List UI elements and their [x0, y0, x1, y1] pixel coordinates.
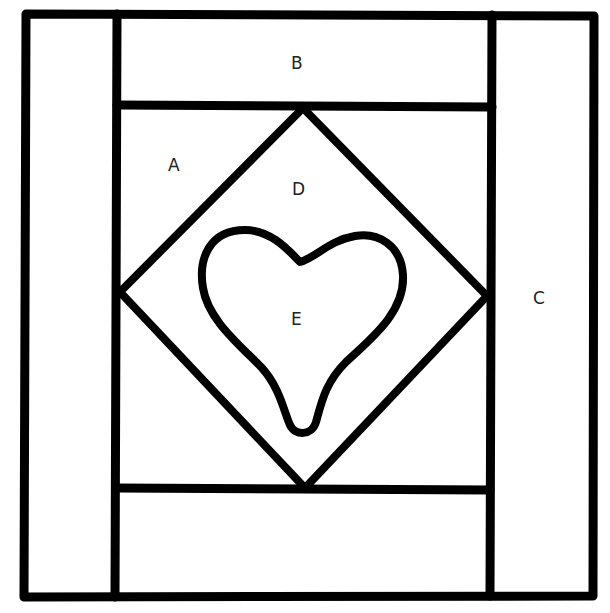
heart-shape: [202, 230, 403, 433]
label-e: E: [291, 309, 302, 329]
right-stripe-divider: [490, 15, 492, 596]
label-a: A: [168, 155, 180, 175]
label-b: B: [291, 53, 303, 73]
label-d: D: [292, 179, 305, 199]
outer-border: [24, 14, 594, 597]
label-c: C: [533, 288, 545, 308]
quilt-block-diagram: A B C D E: [0, 0, 610, 613]
